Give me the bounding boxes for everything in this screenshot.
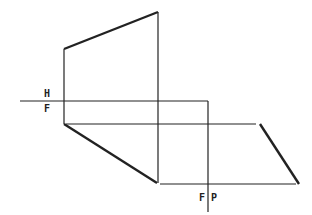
front-view-edge <box>64 124 157 183</box>
orthographic-projection-diagram: H F F P <box>0 0 312 215</box>
label-f-left: F <box>44 103 50 114</box>
top-view-edge <box>64 12 158 49</box>
label-h: H <box>44 88 50 99</box>
label-f-bottom: F <box>199 192 205 203</box>
label-p-bottom: P <box>211 192 217 203</box>
profile-view-edge <box>260 124 299 184</box>
